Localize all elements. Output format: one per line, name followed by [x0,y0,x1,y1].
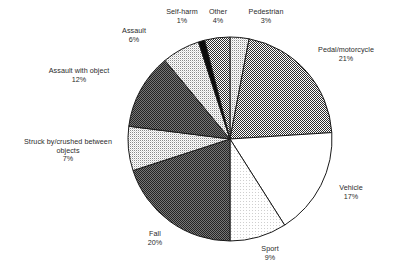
slice-label-vehicle-percent: 17% [327,193,375,202]
slice-label-assault-with-object: Assault with object 12% [29,67,129,84]
slice-label-sport: Sport 9% [250,245,290,262]
slice-label-struck-by-crushed: Struck by/crushed between objects 7% [7,138,129,164]
slice-label-pedal-motorcycle-percent: 21% [300,55,392,64]
slice-label-pedestrian-percent: 3% [235,17,297,26]
slice-label-assault-with-object-percent: 12% [29,76,129,85]
slice-label-struck-by-crushed-percent: 7% [7,155,129,164]
slice-label-pedestrian: Pedestrian 3% [235,8,297,25]
slice-label-pedal-motorcycle: Pedal/motorcycle 21% [300,46,392,63]
slice-label-vehicle: Vehicle 17% [327,184,375,201]
slice-label-other: Other 4% [196,8,240,25]
slice-label-sport-percent: 9% [250,254,290,263]
pie-chart: Self-harm 1% Other 4% Pedestrian 3% Assa… [0,0,402,277]
slice-label-fall-percent: 20% [137,239,173,248]
slice-label-other-percent: 4% [196,17,240,26]
slice-label-fall: Fall 20% [137,230,173,247]
slice-label-assault-percent: 6% [109,36,159,45]
slice-label-assault: Assault 6% [109,27,159,44]
